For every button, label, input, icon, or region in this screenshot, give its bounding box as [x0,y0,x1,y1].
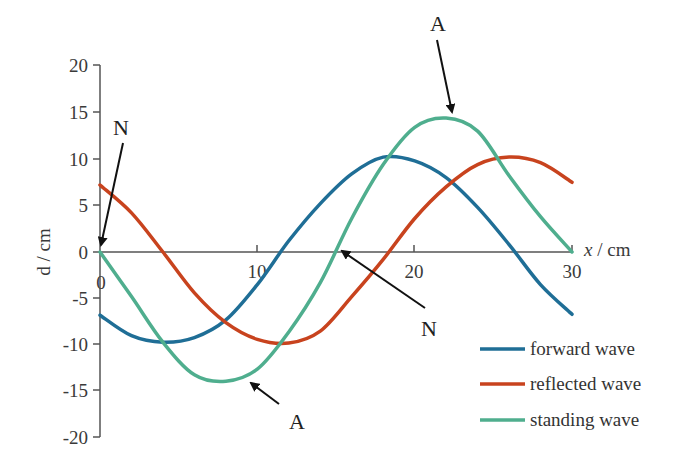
chart-canvas: 20 15 10 5 0 -5 -10 -15 -20 d / cm 0 10 … [0,0,696,466]
y-tick-label: 0 [79,242,89,263]
legend-item-standing: standing wave [480,409,639,430]
y-tick-label: -20 [63,427,88,448]
arrow-icon [251,383,279,404]
legend-label: forward wave [530,338,635,359]
arrow-icon [437,40,452,112]
x-ticks [257,245,572,252]
x-axis-label: x / cm [583,239,631,260]
y-tick-label: 20 [69,55,88,76]
arrow-icon [101,143,123,245]
legend-label: reflected wave [530,373,641,394]
series-layer [100,118,572,382]
annotation-antinode-label: A [430,11,446,36]
legend-label: standing wave [530,409,639,430]
y-tick-label: 5 [79,195,89,216]
y-tick-label: 15 [69,102,88,123]
y-axis-label: d / cm [33,228,54,276]
x-tick-label: 20 [405,261,424,282]
y-tick-label: -10 [63,334,88,355]
legend-item-forward: forward wave [480,338,635,359]
y-tick-label: 10 [69,149,88,170]
annotation-node-label: N [421,316,437,341]
legend-item-reflected: reflected wave [480,373,641,394]
legend: forward wave reflected wave standing wav… [480,338,641,430]
annotations: N A N A [101,11,452,434]
annotation-antinode-label: A [289,409,305,434]
annotation-node-label: N [113,115,129,140]
x-tick-label-origin: 0 [96,272,106,293]
y-tick-label: -15 [63,380,88,401]
x-tick-label: 30 [563,261,582,282]
x-tick-labels: 0 10 20 30 [96,261,581,293]
y-tick-labels: 20 15 10 5 0 -5 -10 -15 -20 [63,55,88,448]
y-tick-label: -5 [72,288,88,309]
